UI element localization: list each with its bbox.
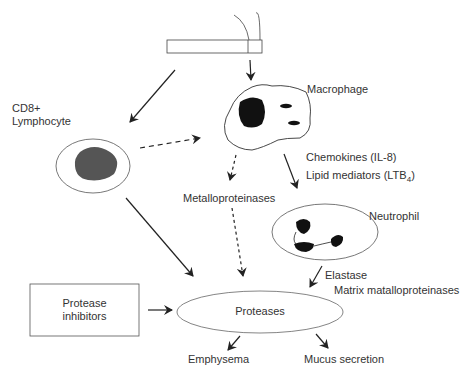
neutrophil-cell-icon [272,204,378,260]
label-macrophage: Macrophage [307,82,368,96]
label-chemokines: Chemokines (IL-8) [306,150,396,164]
arrow-metalloproteinases-proteases [232,208,243,276]
label-elastase: Elastase [325,268,367,282]
arrow-lymphocyte-macrophage [140,138,200,148]
lymphocyte-cell-icon [56,139,130,193]
arrow-proteases-mucus [316,334,328,348]
arrow-lymphocyte-proteases [126,198,193,276]
arrow-proteases-emphysema [228,336,240,350]
label-cd8-line2: Lymphocyte [12,114,71,128]
arrow-macrophage-metalloproteinases [230,155,236,180]
label-proteases: Proteases [210,304,310,318]
cigarette-icon [167,13,262,53]
arrow-cigarette-lymphocyte [130,70,175,122]
arrow-cigarette-macrophage [250,60,251,80]
macrophage-cell-icon [224,85,310,150]
label-protease-inhibitors-line2: inhibitors [30,309,139,323]
arrow-macrophage-neutrophil [284,154,297,188]
label-lipid-mediators: Lipid mediators (LTB4) [306,168,415,187]
label-cd8-line1: CD8+ [12,101,40,115]
label-protease-inhibitors-line1: Protease [30,296,139,310]
label-mucus-secretion: Mucus secretion [304,352,384,366]
label-neutrophil: Neutrophil [369,209,419,223]
label-metalloproteinases: Metalloproteinases [183,191,275,205]
label-matrix-mmp: Matrix matalloproteinases [334,283,459,297]
arrow-neutrophil-proteases [310,266,322,287]
label-emphysema: Emphysema [188,352,249,366]
